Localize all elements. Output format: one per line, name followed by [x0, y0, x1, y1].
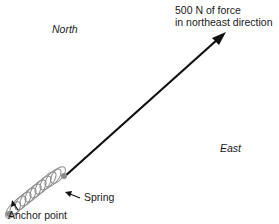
spring-pointer-line [70, 194, 80, 198]
east-label: East [220, 142, 241, 154]
anchor-point-label: Anchor point [8, 209, 67, 221]
force-vector-line [64, 39, 218, 177]
spring-label: Spring [84, 191, 114, 203]
north-label: North [52, 23, 78, 35]
force-label-line2: in northeast direction [175, 16, 272, 28]
spring-pointer-arrow-icon [65, 191, 72, 197]
force-diagram [0, 0, 279, 224]
force-label-line1: 500 N of force [175, 4, 241, 16]
spring-end-dot [61, 173, 67, 179]
